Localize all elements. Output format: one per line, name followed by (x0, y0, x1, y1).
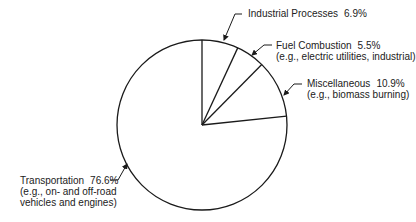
slice-percent: 5.5% (358, 40, 381, 51)
slice-name: Transportation (20, 175, 84, 186)
slice-description: vehicles and engines) (20, 197, 117, 208)
leader-misc (284, 84, 302, 95)
label-miscellaneous: Miscellaneous10.9% (e.g., biomass burnin… (307, 78, 409, 100)
slice-percent: 6.9% (344, 8, 367, 19)
slice-description: (e.g., biomass burning) (307, 89, 409, 100)
slice-name: Fuel Combustion (276, 40, 352, 51)
slice-percent: 10.9% (376, 78, 404, 89)
leader-fuel (252, 45, 272, 55)
slice-description: (e.g., on- and off-road (20, 186, 117, 197)
leader-industrial (224, 14, 242, 40)
slice-name: Industrial Processes (248, 8, 338, 19)
slice-name: Miscellaneous (307, 78, 370, 89)
slice-percent: 76.6% (90, 175, 118, 186)
label-industrial-processes: Industrial Processes6.9% (248, 8, 367, 19)
label-fuel-combustion: Fuel Combustion5.5% (e.g., electric util… (276, 40, 416, 62)
slice-description: (e.g., electric utilities, industrial) (276, 51, 416, 62)
label-transportation: Transportation76.6% (e.g., on- and off-r… (20, 175, 118, 208)
